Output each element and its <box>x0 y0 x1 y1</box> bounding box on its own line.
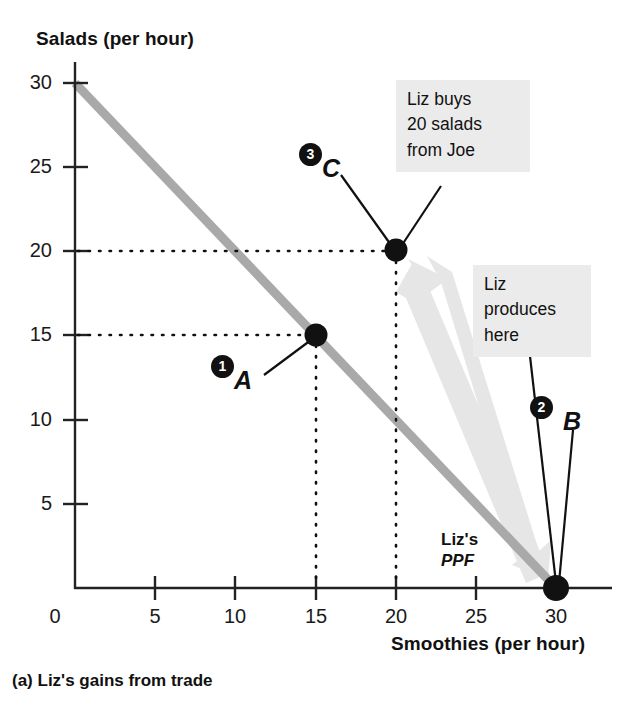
badge-2: 2 <box>530 396 553 419</box>
figure-caption: (a) Liz's gains from trade <box>12 671 213 691</box>
leader-line-c <box>341 175 391 245</box>
y-tick-label-25: 25 <box>10 155 52 178</box>
point-label-c: C <box>322 154 340 183</box>
y-tick-label-15: 15 <box>10 323 52 346</box>
x-tick-label-0: 0 <box>35 605 75 628</box>
point-marker-b <box>543 575 569 601</box>
x-tick-label-30: 30 <box>536 605 576 628</box>
callout-liz-buys: Liz buys 20 salads from Joe <box>396 80 530 172</box>
x-axis-title: Smoothies (per hour) <box>391 633 585 655</box>
point-marker-a <box>305 324 328 347</box>
ppf-figure: Salads (per hour) Smoothies (per hour) 3… <box>0 0 635 712</box>
x-tick-label-15: 15 <box>296 605 336 628</box>
ppf-label-line1: Liz's <box>441 530 478 549</box>
y-tick-label-30: 30 <box>10 71 52 94</box>
badge-1: 1 <box>211 355 234 378</box>
point-label-a: A <box>234 366 252 395</box>
x-tick-label-10: 10 <box>215 605 255 628</box>
leader-line-buy-callout <box>402 186 441 245</box>
point-marker-c <box>385 239 408 262</box>
leader-line-b <box>559 430 573 583</box>
callout-liz-produces: Liz produces here <box>473 265 591 357</box>
x-tick-label-20: 20 <box>376 605 416 628</box>
y-tick-label-20: 20 <box>10 239 52 262</box>
y-axis-title: Salads (per hour) <box>36 28 194 50</box>
y-tick-label-5: 5 <box>10 492 52 515</box>
guide-lines-c <box>78 251 396 585</box>
ppf-label-line2: PPF <box>441 550 478 571</box>
x-tick-label-25: 25 <box>456 605 496 628</box>
ppf-curve-label: Liz's PPF <box>441 529 478 572</box>
leader-line-a <box>264 340 311 375</box>
point-label-b: B <box>563 407 581 436</box>
x-tick-label-5: 5 <box>135 605 175 628</box>
y-tick-label-10: 10 <box>10 408 52 431</box>
badge-3: 3 <box>299 143 322 166</box>
guide-lines-a <box>78 335 316 585</box>
